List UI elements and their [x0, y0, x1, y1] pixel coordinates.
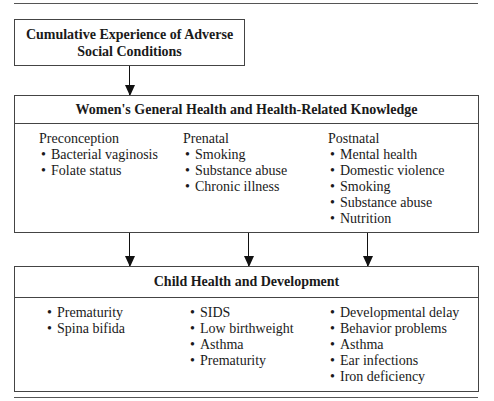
top-rule	[14, 3, 478, 4]
list-item: Iron deficiency	[328, 369, 459, 385]
list-item: Asthma	[328, 337, 459, 353]
child-health-box: Child Health and Development Prematurity…	[14, 266, 479, 392]
list-item: Smoking	[328, 179, 445, 195]
bottom-rule	[14, 397, 478, 398]
arrow-box1-to-box2	[129, 66, 130, 95]
list-item: Developmental delay	[328, 305, 459, 321]
arrow-preconception-to-child	[129, 233, 130, 266]
list-item: Mental health	[328, 147, 445, 163]
womens-health-title: Women's General Health and Health-Relate…	[15, 96, 478, 124]
prenatal-heading: Prenatal	[183, 131, 287, 147]
child-column-2: SIDS Low birthweight Asthma Prematurity	[188, 305, 294, 369]
postnatal-heading: Postnatal	[328, 131, 445, 147]
list-item: Substance abuse	[183, 163, 287, 179]
list-item: Prematurity	[45, 305, 125, 321]
child-column-3: Developmental delay Behavior problems As…	[328, 305, 459, 385]
postnatal-column: Postnatal Mental health Domestic violenc…	[328, 131, 445, 227]
list-item: SIDS	[188, 305, 294, 321]
prenatal-column: Prenatal Smoking Substance abuse Chronic…	[183, 131, 287, 195]
arrow-postnatal-to-child	[367, 233, 368, 266]
list-item: Folate status	[39, 163, 158, 179]
list-item: Spina bifida	[45, 321, 125, 337]
list-item: Nutrition	[328, 211, 445, 227]
list-item: Ear infections	[328, 353, 459, 369]
list-item: Prematurity	[188, 353, 294, 369]
box1-title-line1: Cumulative Experience of Adverse	[15, 26, 244, 43]
list-item: Domestic violence	[328, 163, 445, 179]
list-item: Asthma	[188, 337, 294, 353]
preconception-column: Preconception Bacterial vaginosis Folate…	[39, 131, 158, 179]
list-item: Substance abuse	[328, 195, 445, 211]
list-item: Behavior problems	[328, 321, 459, 337]
womens-health-box: Women's General Health and Health-Relate…	[14, 95, 479, 233]
box1-title-line2: Social Conditions	[15, 43, 244, 60]
list-item: Low birthweight	[188, 321, 294, 337]
adverse-social-conditions-box: Cumulative Experience of Adverse Social …	[14, 19, 245, 66]
child-health-title: Child Health and Development	[15, 267, 478, 298]
list-item: Chronic illness	[183, 179, 287, 195]
list-item: Smoking	[183, 147, 287, 163]
list-item: Bacterial vaginosis	[39, 147, 158, 163]
preconception-heading: Preconception	[39, 131, 158, 147]
child-column-1: Prematurity Spina bifida	[45, 305, 125, 337]
arrow-prenatal-to-child	[248, 233, 249, 266]
